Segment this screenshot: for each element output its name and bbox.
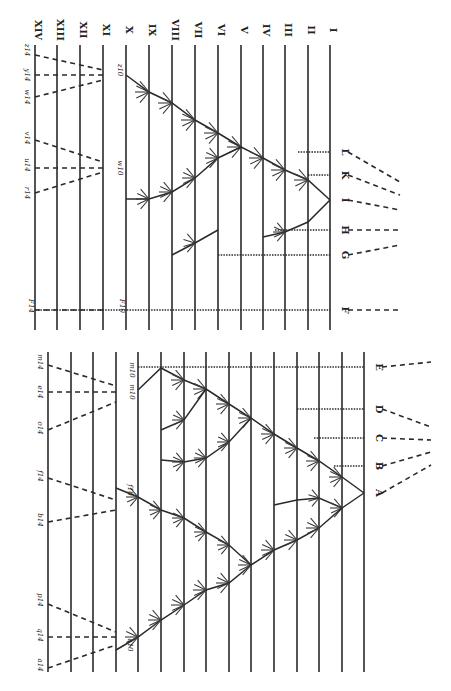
species-label: F10 — [118, 298, 126, 313]
species-label: b14 — [36, 513, 44, 526]
descendant-dash — [35, 55, 103, 70]
species-label: m10 — [128, 384, 136, 400]
species-label: f14 — [36, 469, 44, 482]
species-label: a14 — [36, 658, 44, 671]
species-label: F14 — [27, 298, 35, 313]
descendant-dash — [35, 80, 103, 97]
species-label: q14 — [36, 628, 44, 641]
generation-label: IX — [147, 24, 158, 37]
species-dash — [348, 175, 400, 195]
species-label: z14 — [23, 43, 31, 57]
descendant-dash — [35, 172, 103, 193]
species-label: e14 — [36, 385, 44, 398]
generation-label: VII — [193, 20, 204, 38]
generation-label: XII — [78, 21, 89, 38]
generation-label: III — [283, 23, 294, 37]
species-dash — [382, 465, 431, 493]
species-dash — [348, 152, 400, 182]
generation-label: II — [306, 25, 317, 35]
lineage-z — [126, 75, 330, 200]
generation-label: I — [328, 28, 339, 33]
generation-label: XIII — [55, 19, 66, 41]
species-dash — [382, 362, 431, 367]
descendant-dash — [48, 365, 116, 386]
species-dash — [382, 409, 431, 427]
generation-label: VIII — [170, 18, 181, 41]
descendant-dash — [48, 402, 116, 430]
upper-panel: XIVXIIIXIIXIXIXVIIIVIIVIVIVIIIIIILKIHGFF… — [23, 18, 400, 330]
species-dash — [348, 200, 400, 210]
species-label: f10 — [126, 483, 134, 496]
species-label: a10 — [126, 638, 134, 652]
descendant-dash — [48, 478, 116, 500]
generation-label: IV — [261, 24, 272, 37]
species-dash — [382, 438, 431, 440]
generation-label: VI — [216, 23, 227, 37]
generation-label: V — [239, 25, 250, 34]
species-label: r14 — [23, 187, 31, 199]
lower-panel: EDCBAm14e14o14f14b14p14q14a14m10m10f10a1… — [36, 352, 431, 672]
species-label: w14 — [23, 90, 31, 105]
divergence-diagram: XIVXIIIXIIXIXIXVIIIVIIVIVIVIIIIIILKIHGFF… — [0, 0, 451, 691]
generation-label: XIV — [33, 20, 44, 40]
species-label: u14 — [23, 158, 31, 171]
species-label: p14 — [36, 593, 44, 606]
species-label: v14 — [23, 132, 31, 145]
species-dash — [348, 245, 400, 255]
generation-label: XI — [101, 24, 112, 37]
descendant-dash — [48, 645, 116, 668]
species-label: z10 — [116, 63, 124, 77]
species-label: o14 — [36, 421, 44, 434]
generation-label: X — [124, 26, 135, 34]
species-label: m10 — [128, 362, 136, 378]
species-label: w10 — [116, 161, 124, 176]
species-dash — [382, 452, 431, 466]
descendant-dash — [35, 140, 103, 162]
species-label: m14 — [36, 354, 44, 370]
descendant-dash — [48, 510, 116, 522]
species-label: y14 — [23, 68, 31, 82]
descendant-dash — [48, 604, 116, 632]
